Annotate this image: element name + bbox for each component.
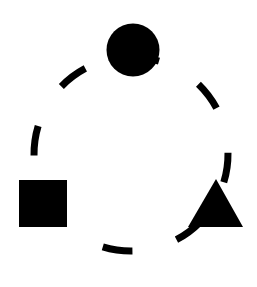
square-shape <box>19 180 67 227</box>
figure-svg <box>0 0 257 287</box>
circle-shape <box>107 24 160 77</box>
figure-canvas <box>0 0 257 287</box>
